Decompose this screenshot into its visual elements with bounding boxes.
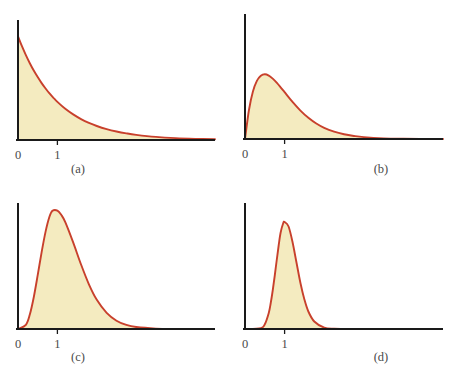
density-panel-b: 01(b)	[229, 0, 458, 187]
x-tick-label: 1	[47, 338, 67, 351]
x-tick-label: 1	[275, 338, 295, 351]
density-plot	[229, 0, 458, 187]
density-area-fill	[245, 222, 364, 329]
density-area-fill	[245, 74, 443, 139]
density-area-fill	[18, 210, 176, 329]
x-tick-label: 0	[8, 338, 28, 351]
density-plot	[229, 188, 458, 375]
x-tick-label: 0	[8, 149, 28, 162]
x-tick-label: 0	[235, 338, 255, 351]
density-panel-d: 01(d)	[229, 188, 458, 375]
x-tick-label: 0	[235, 148, 255, 161]
density-area-fill	[18, 36, 215, 140]
density-panel-c: 01(c)	[0, 188, 229, 375]
panel-caption: (d)	[361, 351, 401, 364]
density-plot	[0, 0, 229, 187]
x-tick-label: 1	[275, 148, 295, 161]
panel-caption: (c)	[58, 351, 98, 364]
density-panel-a: 01(a)	[0, 0, 229, 187]
x-tick-label: 1	[47, 149, 67, 162]
gamma-density-figure: 01(a)01(b)01(c)01(d)	[0, 0, 458, 375]
panel-caption: (b)	[361, 163, 401, 176]
density-plot	[0, 188, 229, 375]
panel-caption: (a)	[58, 163, 98, 176]
